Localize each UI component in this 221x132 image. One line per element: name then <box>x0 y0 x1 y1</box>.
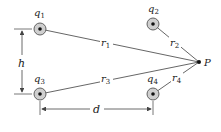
dimension-d: d <box>40 101 153 116</box>
svg-text:P: P <box>203 57 211 68</box>
charge-diagram: h d q1 q2 q3 q4 r1 r2 r3 <box>0 0 221 132</box>
point-p: P <box>197 57 211 68</box>
svg-text:q1: q1 <box>34 7 45 20</box>
charge-q1: q1 <box>34 7 46 35</box>
charge-q3: q3 <box>34 73 46 100</box>
label-r3: r3 <box>100 73 113 86</box>
svg-text:q2: q2 <box>148 3 159 16</box>
charge-q4: q4 <box>147 73 159 100</box>
label-r1: r1 <box>100 37 113 50</box>
svg-text:q3: q3 <box>34 73 45 86</box>
dimension-h: h <box>14 29 32 94</box>
d-label: d <box>93 103 100 116</box>
svg-text:q4: q4 <box>147 73 158 86</box>
label-r2: r2 <box>169 37 181 50</box>
label-r4: r4 <box>171 72 183 85</box>
h-label: h <box>18 57 25 70</box>
charge-q2: q2 <box>147 3 159 30</box>
